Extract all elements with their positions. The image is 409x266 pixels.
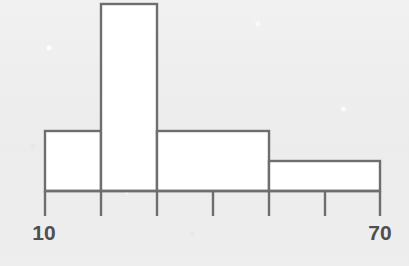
histogram-plot: 10 70 bbox=[0, 0, 409, 266]
x-axis-label-left: 10 bbox=[32, 221, 55, 244]
histogram-bar bbox=[101, 4, 157, 191]
bar-series bbox=[45, 4, 380, 191]
histogram-bar bbox=[45, 131, 101, 191]
x-axis-ticks bbox=[45, 191, 380, 216]
histogram-bar bbox=[157, 131, 269, 191]
x-axis-label-right: 70 bbox=[368, 221, 391, 244]
histogram-bar bbox=[269, 161, 380, 191]
histogram-figure: 10 70 bbox=[0, 0, 409, 266]
